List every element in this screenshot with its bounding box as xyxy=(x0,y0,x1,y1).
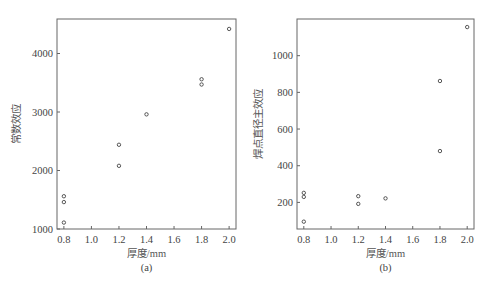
x-tick-label: 1.8 xyxy=(195,234,208,245)
y-tick-label: 400 xyxy=(277,160,293,171)
panel-a-constant-effect: 0.81.01.21.41.61.82.01000200030004000厚度/… xyxy=(10,19,236,274)
data-point xyxy=(302,191,305,194)
y-tick-label: 800 xyxy=(277,87,293,98)
y-tick-label: 200 xyxy=(277,197,293,208)
data-point xyxy=(62,195,65,198)
data-point xyxy=(302,220,305,223)
y-axis-label: 常数效应 xyxy=(10,103,22,144)
y-axis-label: 焊点直径主效应 xyxy=(252,88,264,159)
x-tick-label: 2.0 xyxy=(223,234,236,245)
y-tick-label: 1000 xyxy=(32,224,53,235)
data-point xyxy=(302,195,305,198)
panel-b-diameter-main-effect: 0.81.01.21.41.61.82.02004006008001000厚度/… xyxy=(252,19,474,274)
x-tick-label: 1.0 xyxy=(85,234,98,245)
panel-caption: (a) xyxy=(141,262,153,274)
plot-frame xyxy=(297,19,474,229)
scatter-figure: 0.81.01.21.41.61.82.01000200030004000厚度/… xyxy=(0,0,490,286)
y-tick-label: 600 xyxy=(277,124,293,135)
x-tick-label: 1.4 xyxy=(140,234,154,245)
x-tick-label: 1.8 xyxy=(433,234,446,245)
x-tick-label: 1.2 xyxy=(352,234,365,245)
x-tick-label: 1.0 xyxy=(324,234,337,245)
y-tick-label: 1000 xyxy=(272,50,293,61)
panel-caption: (b) xyxy=(379,262,392,274)
y-tick-label: 3000 xyxy=(32,107,53,118)
data-point xyxy=(438,79,441,82)
x-tick-label: 1.6 xyxy=(167,234,180,245)
y-tick-label: 2000 xyxy=(32,165,53,176)
data-point xyxy=(62,200,65,203)
x-axis-label: 厚度/mm xyxy=(127,247,166,259)
x-tick-label: 1.4 xyxy=(379,234,393,245)
x-axis-label: 厚度/mm xyxy=(366,247,405,259)
data-point xyxy=(384,197,387,200)
y-tick-label: 4000 xyxy=(32,48,53,59)
data-point xyxy=(117,143,120,146)
data-point xyxy=(438,149,441,152)
data-point xyxy=(357,194,360,197)
data-point xyxy=(145,113,148,116)
x-tick-label: 2.0 xyxy=(461,234,474,245)
data-point xyxy=(227,27,230,30)
plot-frame xyxy=(57,19,236,229)
data-point xyxy=(62,221,65,224)
data-point xyxy=(200,78,203,81)
data-point xyxy=(357,202,360,205)
x-tick-label: 1.2 xyxy=(112,234,125,245)
data-point xyxy=(117,164,120,167)
data-point xyxy=(200,83,203,86)
x-tick-label: 1.6 xyxy=(406,234,419,245)
data-point xyxy=(465,25,468,28)
x-tick-label: 0.8 xyxy=(297,234,310,245)
x-tick-label: 0.8 xyxy=(57,234,70,245)
